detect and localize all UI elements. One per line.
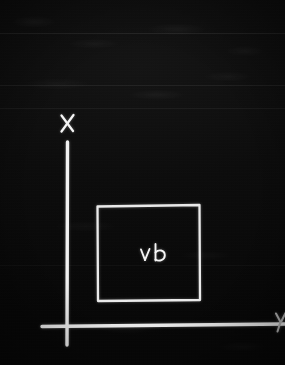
diagram-canvas: X Y v b	[0, 0, 285, 365]
inner-label-glyph	[141, 244, 165, 261]
drawing-layer	[0, 0, 285, 365]
diagram-svg	[0, 0, 285, 365]
vertical-axis-line	[67, 142, 68, 345]
axis-label-x-glyph	[62, 115, 74, 132]
axis-label-y-glyph	[276, 313, 285, 332]
horizontal-axis-line	[42, 324, 285, 327]
